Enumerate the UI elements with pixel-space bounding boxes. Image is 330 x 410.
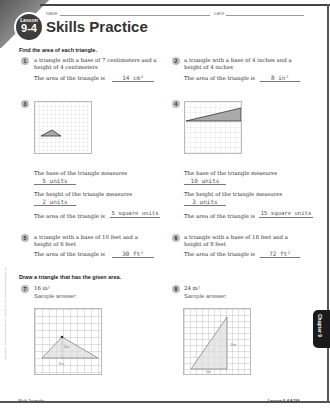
problem-2-answer[interactable]: 8 in² — [260, 74, 300, 82]
problem-7-height-label: 4 in. — [64, 345, 70, 349]
chapter-tab-label: Chapter 9 — [317, 314, 323, 337]
problem-7-grid: 4 in. 8 in. — [34, 308, 102, 375]
problem-2-text: a triangle with a base of 4 inches and a… — [184, 57, 304, 71]
problem-8-grid: 8 m 6 m — [183, 308, 251, 375]
footer-book-title: Math Triumphs — [18, 398, 44, 403]
problem-8-sample-label: Sample answer: — [184, 293, 227, 299]
date-label: DATE — [214, 11, 224, 16]
lesson-number: 9-4 — [16, 23, 42, 34]
triangle-3-diagram — [35, 102, 91, 153]
copyright-notice: Copyright © Macmillan/McGraw-Hill, a div… — [4, 210, 7, 360]
section-heading-find-area: Find the area of each triangle. — [19, 47, 97, 53]
name-label: NAME — [46, 11, 58, 16]
problem-number-3: 3 — [21, 100, 29, 108]
problem-4-area-prompt: The area of the triangle is — [184, 213, 255, 220]
problem-number-4: 4 — [172, 100, 180, 108]
top-border — [40, 4, 330, 6]
lesson-badge: Lesson 9-4 — [14, 12, 44, 42]
problem-number-1: 1 — [21, 57, 29, 65]
problem-3-height-answer[interactable]: 2 units — [34, 198, 76, 206]
problem-1-answer[interactable]: 14 cm² — [112, 74, 154, 82]
problem-number-5: 5 — [21, 234, 29, 242]
worksheet-page: Lesson 9-4 NAME DATE Skills Practice Fin… — [0, 0, 330, 410]
problem-4-base-answer[interactable]: 10 units — [184, 177, 226, 185]
date-field[interactable] — [226, 15, 304, 16]
problem-8-area: 24 m² — [184, 285, 200, 292]
problem-7-base-label: 8 in. — [59, 362, 65, 366]
problem-7-area: 16 in² — [34, 285, 50, 292]
problem-3-area-prompt: The area of the triangle is — [34, 213, 105, 220]
problem-8-base-label: 6 m — [206, 370, 212, 374]
problem-1-text: a triangle with a base of 7 centimeters … — [34, 57, 164, 71]
page-title: Skills Practice — [46, 18, 148, 35]
problem-6-answer[interactable]: 72 ft² — [260, 250, 300, 258]
problem-number-6: 6 — [172, 234, 180, 242]
problem-5-answer[interactable]: 30 ft² — [112, 250, 154, 258]
problem-4-grid — [184, 101, 242, 154]
problem-4-height-prompt: The height of the triangle measures — [184, 191, 282, 198]
problem-4-height-answer[interactable]: 3 units — [184, 198, 226, 206]
problem-3-area-answer[interactable]: 5 square units — [110, 210, 160, 218]
problem-7-sample-label: Sample answer: — [34, 293, 77, 299]
problem-4-base-prompt: The base of the triangle measures — [184, 170, 277, 177]
triangle-7-diagram: 4 in. 8 in. — [35, 309, 101, 374]
problem-5-text: a triangle with a base of 10 feet and a … — [34, 234, 154, 248]
problem-3-base-prompt: The base of the triangle measures — [34, 170, 127, 177]
triangle-4-diagram — [185, 102, 241, 153]
problem-3-grid — [34, 101, 92, 154]
problem-number-7: 7 — [21, 285, 29, 293]
name-field[interactable] — [60, 15, 210, 16]
problem-number-8: 8 — [172, 285, 180, 293]
problem-5-prompt: The area of the triangle is — [34, 251, 105, 258]
problem-1-prompt: The area of the triangle is — [34, 75, 105, 82]
problem-3-base-answer[interactable]: 5 units — [34, 177, 76, 185]
footer-page-number: Lesson 9-4 A199 — [268, 398, 299, 403]
section-heading-draw-triangle: Draw a triangle that has the given area. — [19, 274, 121, 280]
triangle-8-diagram: 8 m 6 m — [184, 309, 250, 374]
chapter-tab: Chapter 9 — [313, 310, 330, 348]
problem-8-height-label: 8 m — [231, 343, 237, 347]
problem-3-height-prompt: The height of the triangle measures — [34, 191, 132, 198]
problem-2-prompt: The area of the triangle is — [184, 75, 255, 82]
problem-6-text: a triangle with a base of 18 feet and a … — [184, 234, 304, 248]
problem-6-prompt: The area of the triangle is — [184, 251, 255, 258]
problem-number-2: 2 — [172, 57, 180, 65]
problem-4-area-answer[interactable]: 15 square units — [259, 210, 313, 218]
